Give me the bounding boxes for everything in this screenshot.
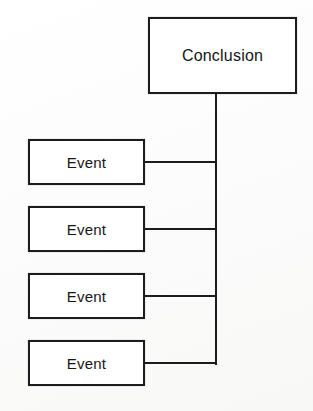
edge-event-3-to-conclusion bbox=[144, 295, 217, 297]
node-event-1[interactable]: Event bbox=[28, 139, 145, 185]
node-event-4-label: Event bbox=[67, 356, 106, 371]
node-event-2[interactable]: Event bbox=[28, 206, 145, 252]
node-event-1-label: Event bbox=[67, 155, 106, 170]
node-conclusion[interactable]: Conclusion bbox=[148, 17, 297, 94]
diagram-canvas: Conclusion Event Event Event Event bbox=[0, 0, 313, 411]
edge-event-1-to-conclusion bbox=[144, 161, 217, 163]
node-event-3[interactable]: Event bbox=[28, 273, 145, 319]
node-event-2-label: Event bbox=[67, 222, 106, 237]
node-conclusion-label: Conclusion bbox=[182, 48, 263, 64]
edge-event-4-to-conclusion bbox=[144, 362, 217, 364]
node-event-3-label: Event bbox=[67, 289, 106, 304]
node-event-4[interactable]: Event bbox=[28, 340, 145, 386]
edge-event-2-to-conclusion bbox=[144, 228, 217, 230]
